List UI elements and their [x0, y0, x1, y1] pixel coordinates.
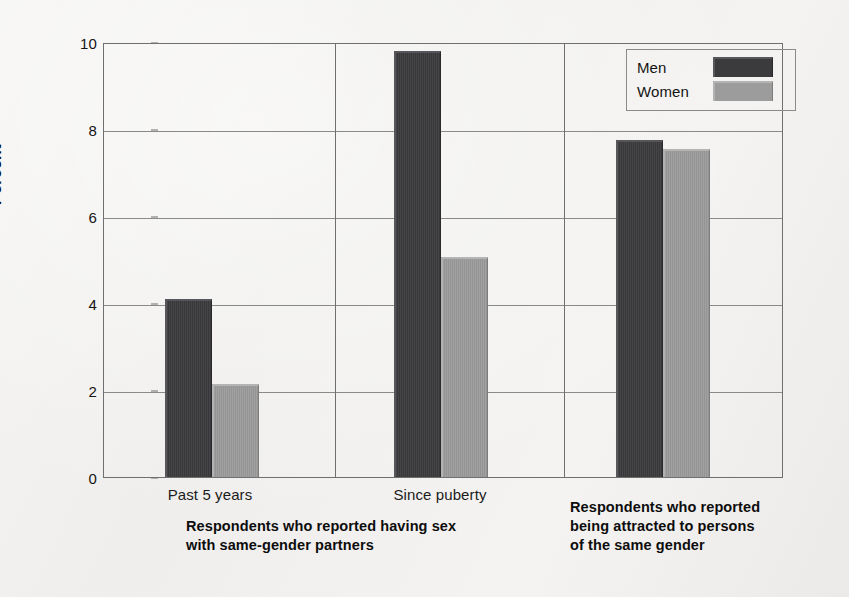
bar-chart: Percent 10 8 6 4 2 0 M	[0, 0, 849, 597]
category-label-past-5-years: Past 5 years	[130, 486, 290, 503]
panel-divider-2	[564, 44, 565, 477]
legend-swatch-men-icon	[713, 57, 773, 77]
y-tick-label-2: 2	[63, 383, 97, 400]
panel-caption-sexual-behavior-line1: Respondents who reported having sex	[186, 517, 516, 536]
legend-swatch-women-icon	[713, 81, 773, 101]
legend: Men Women	[626, 49, 796, 111]
panel-caption-sexual-behavior-line2: with same-gender partners	[186, 536, 516, 555]
legend-item-women[interactable]: Women	[637, 81, 787, 101]
y-axis-title: Percent	[0, 144, 5, 205]
y-axis-ticks: 10 8 6 4 2 0	[55, 43, 97, 478]
panel-caption-attraction-line1: Respondents who reported	[570, 498, 830, 517]
plot-area: Men Women	[103, 43, 783, 478]
panel-caption-attraction-line2: being attracted to persons	[570, 517, 830, 536]
bar-men-past-5-years[interactable]	[165, 299, 212, 477]
bar-men-attraction[interactable]	[616, 140, 663, 477]
y-tick-label-8: 8	[63, 122, 97, 139]
bar-women-past-5-years[interactable]	[212, 384, 259, 478]
panel-divider-1	[335, 44, 336, 477]
bar-women-since-puberty[interactable]	[441, 257, 488, 477]
panel-caption-attraction: Respondents who reported being attracted…	[570, 498, 830, 555]
gridline-8	[104, 131, 782, 132]
y-tick-label-0: 0	[63, 470, 97, 487]
panel-caption-attraction-line3: of the same gender	[570, 536, 830, 555]
legend-label-women: Women	[637, 83, 703, 100]
legend-label-men: Men	[637, 59, 703, 76]
y-tick-label-4: 4	[63, 296, 97, 313]
y-tick-label-6: 6	[63, 209, 97, 226]
category-label-since-puberty: Since puberty	[360, 486, 520, 503]
y-tick-label-10: 10	[63, 35, 97, 52]
bar-women-attraction[interactable]	[663, 149, 710, 477]
bar-men-since-puberty[interactable]	[394, 51, 441, 477]
panel-caption-sexual-behavior: Respondents who reported having sex with…	[186, 517, 516, 555]
legend-item-men[interactable]: Men	[637, 57, 787, 77]
